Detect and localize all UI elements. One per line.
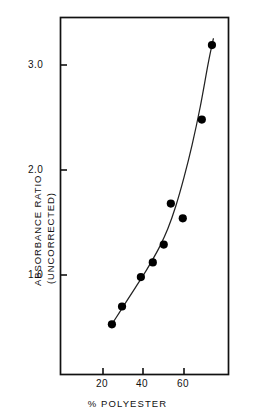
x-tick-label-20: 20	[96, 378, 108, 389]
data-point-group	[108, 41, 216, 329]
data-point	[208, 41, 216, 49]
y-axis-label-line-2: (UNCORRECTED)	[45, 192, 56, 284]
x-tick-label-40: 40	[136, 378, 148, 389]
data-point	[160, 240, 168, 248]
plot-frame	[61, 18, 229, 375]
data-point	[198, 116, 206, 124]
data-point	[118, 302, 126, 310]
data-point	[149, 258, 157, 266]
y-axis-label: ABSORBANCE RATIO (UNCORRECTED)	[8, 120, 48, 290]
y-axis-tick-marks	[61, 65, 68, 275]
data-point	[137, 273, 145, 281]
data-point	[108, 320, 116, 328]
x-tick-label-60: 60	[177, 378, 189, 389]
data-point	[179, 214, 187, 222]
x-axis-label: % POLYESTER	[0, 398, 255, 409]
y-axis-label-line-1: ABSORBANCE RATIO	[32, 175, 43, 286]
y-tick-label-3: 3.0	[28, 59, 43, 70]
data-point	[167, 200, 175, 208]
chart-figure: 3.0 2.0 1.0 20 40 60 ABSORBANCE RATIO (U…	[0, 0, 255, 419]
trend-curve	[111, 39, 213, 326]
x-axis-tick-marks	[103, 368, 184, 375]
